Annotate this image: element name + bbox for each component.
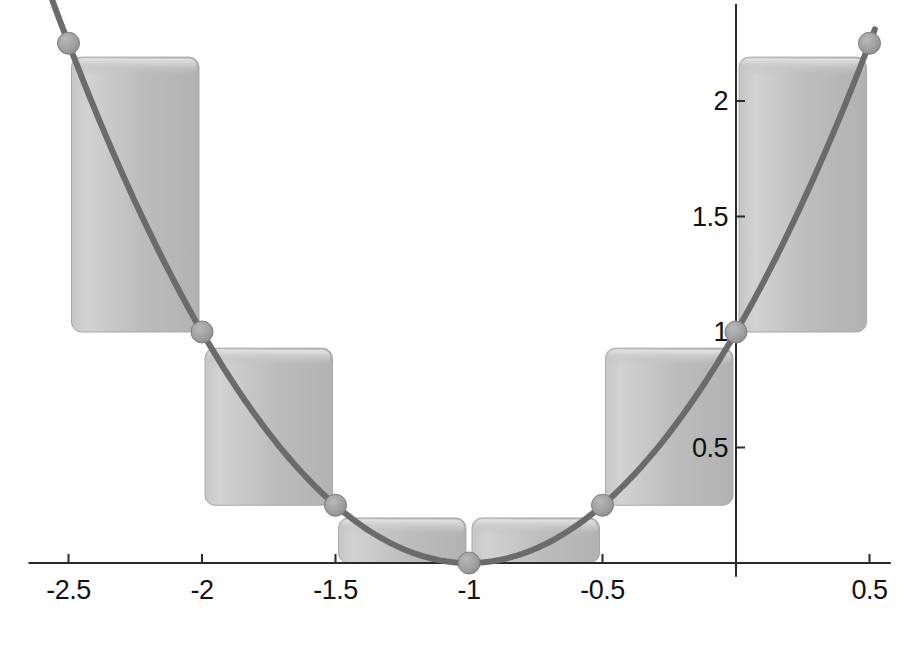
endpoint-marker: [458, 552, 480, 574]
y-tick-label: 0.5: [670, 434, 728, 461]
endpoint-marker: [592, 494, 614, 516]
y-tick-label: 1: [670, 319, 728, 346]
y-tick-label: 1.5: [670, 203, 728, 230]
endpoint-marker: [725, 321, 747, 343]
riemann-sum-plot: [0, 0, 920, 650]
x-tick-label: -0.5: [580, 577, 625, 604]
x-tick-label: -1.5: [313, 577, 358, 604]
endpoint-marker: [58, 32, 80, 54]
x-tick-label: -2: [190, 577, 213, 604]
y-tick-label: 2: [670, 88, 728, 115]
x-tick-label: 0.5: [851, 577, 887, 604]
endpoint-marker: [191, 321, 213, 343]
endpoint-marker: [859, 32, 881, 54]
x-tick-label: -2.5: [46, 577, 91, 604]
chart-canvas: -2.5-2-1.5-1-0.50.5 0.511.52: [0, 0, 920, 650]
x-tick-label: -1: [457, 577, 480, 604]
endpoint-marker: [325, 494, 347, 516]
